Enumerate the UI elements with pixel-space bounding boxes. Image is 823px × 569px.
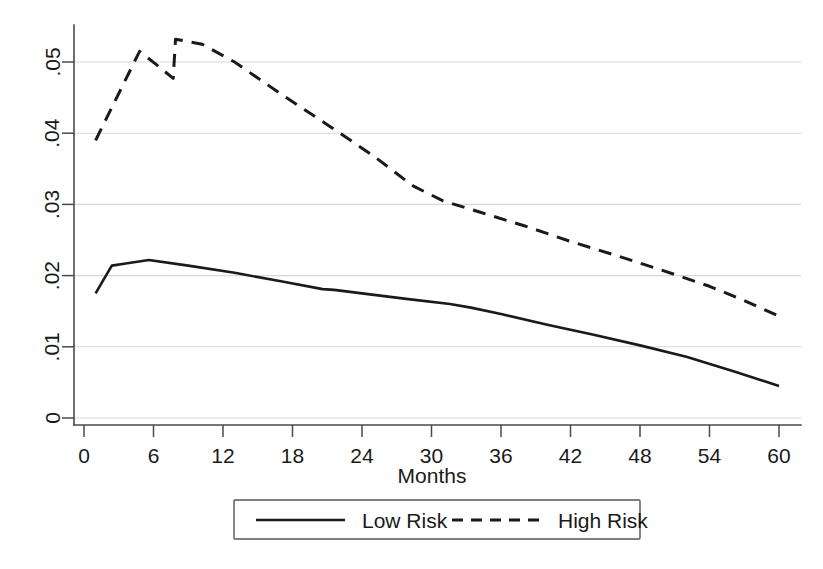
- y-tick-label: .01: [41, 332, 64, 361]
- x-tick-label: 18: [281, 444, 304, 467]
- axis-spines-group: [74, 25, 801, 425]
- x-tick-label: 42: [559, 444, 582, 467]
- x-axis-title: Months: [398, 464, 467, 487]
- x-axis-ticks-group: [84, 425, 779, 437]
- y-tick-label: .04: [41, 118, 64, 148]
- data-series-group: [96, 39, 779, 386]
- chart-legend: Low Risk High Risk: [234, 500, 648, 539]
- x-tick-label: 12: [211, 444, 234, 467]
- y-axis-ticks-group: [62, 62, 74, 418]
- legend-label-high-risk: High Risk: [558, 509, 648, 532]
- x-tick-label: 24: [350, 444, 374, 467]
- x-tick-label: 6: [148, 444, 160, 467]
- y-tick-label: .05: [41, 47, 64, 76]
- legend-label-low-risk: Low Risk: [362, 509, 448, 532]
- y-tick-label: .03: [41, 190, 64, 219]
- gridlines-group: [74, 62, 801, 418]
- x-tick-label: 60: [767, 444, 790, 467]
- chart-figure: 0.01.02.03.04.05 06121824303642485460 Mo…: [0, 0, 823, 569]
- y-tick-label: .02: [41, 261, 64, 290]
- series-line-high-risk: [96, 39, 779, 316]
- y-tick-label: 0: [41, 412, 64, 424]
- series-line-low-risk: [96, 260, 779, 386]
- chart-canvas: 0.01.02.03.04.05 06121824303642485460 Mo…: [0, 0, 823, 569]
- x-tick-label: 48: [628, 444, 651, 467]
- x-tick-label: 36: [489, 444, 512, 467]
- x-tick-label: 0: [78, 444, 90, 467]
- x-tick-label: 54: [698, 444, 722, 467]
- y-axis-tick-labels: 0.01.02.03.04.05: [41, 47, 64, 423]
